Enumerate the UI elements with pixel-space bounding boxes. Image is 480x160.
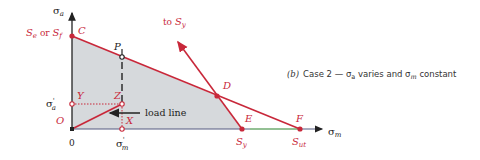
label-f: F bbox=[295, 113, 304, 124]
sigma-a-axis-label: σa bbox=[53, 5, 64, 18]
label-e: E bbox=[244, 113, 253, 124]
origin-label: 0 bbox=[69, 138, 75, 148]
se-or-sf-label: Se or Sf bbox=[26, 27, 63, 40]
point-c bbox=[69, 33, 74, 38]
point-z bbox=[120, 102, 124, 106]
label-c: C bbox=[78, 25, 86, 36]
point-x bbox=[120, 127, 124, 131]
point-d bbox=[214, 93, 219, 98]
point-f bbox=[297, 126, 302, 131]
caption: (b)Case 2 — σa varies and σm constant bbox=[287, 69, 457, 81]
point-o bbox=[70, 127, 74, 131]
sigma-m-prime-label: σ'm bbox=[116, 136, 129, 152]
label-z: Z bbox=[113, 90, 122, 101]
sigma-a-prime-label: σ'a bbox=[46, 97, 56, 112]
label-x: X bbox=[125, 115, 134, 126]
point-p bbox=[120, 55, 124, 59]
goodman-diagram: σa σm 0 Se or Sf C P Z Y X O D E F to Sy… bbox=[0, 0, 480, 160]
label-o: O bbox=[56, 115, 64, 126]
load-line-label: load line bbox=[145, 107, 187, 118]
point-e bbox=[239, 126, 244, 131]
sut-label: Sut bbox=[292, 136, 306, 149]
sigma-m-axis-label: σm bbox=[328, 126, 342, 139]
to-sy-label: to Sy bbox=[163, 16, 187, 29]
label-p: P bbox=[113, 41, 121, 52]
point-y bbox=[70, 102, 74, 106]
sy-label: Sy bbox=[236, 136, 248, 149]
label-d: D bbox=[222, 80, 231, 91]
